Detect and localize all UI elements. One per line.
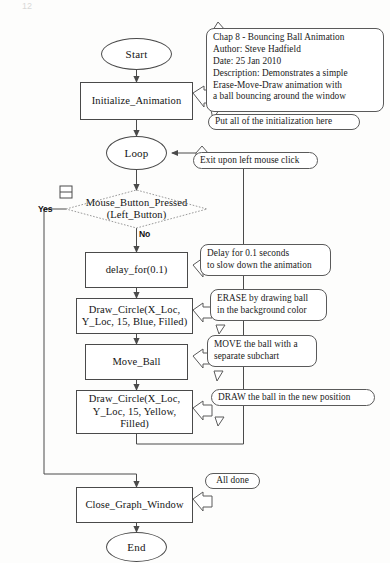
callout-header-line-3: Description: Demonstrates a simple	[213, 68, 377, 80]
decision-no-label: No	[139, 229, 150, 239]
callout-header-line-1: Author: Steve Hadfield	[213, 44, 377, 56]
callout-pointer-draw	[193, 401, 212, 420]
node-decision-line1: Mouse_Button_Pressed	[86, 197, 188, 208]
callout-header-line-5: a ball bouncing around the window	[213, 91, 377, 103]
callout-tail-move	[214, 371, 223, 381]
callout-init-line-0: Put all of the initialization here	[215, 116, 332, 128]
node-erase-text: Draw_Circle(X_Loc, Y_Loc, 15, Blue, Fill…	[82, 304, 188, 329]
node-start-label: Start	[126, 48, 148, 61]
callout-pointer-done	[193, 492, 212, 511]
node-initialize-animation[interactable]: Initialize_Animation	[80, 82, 193, 120]
callout-done-comment[interactable]: All done	[205, 473, 260, 489]
callout-delay-comment[interactable]: Delay for 0.1 seconds to slow down the a…	[200, 244, 331, 276]
node-decision-line2: (Left_Button)	[107, 209, 167, 220]
node-draw-circle-draw[interactable]: Draw_Circle(X_Loc, Y_Loc, 15, Yellow, Fi…	[76, 390, 193, 434]
callout-header-comment[interactable]: Chap 8 - Bouncing Ball Animation Author:…	[206, 28, 384, 112]
node-close-graph-window[interactable]: Close_Graph_Window	[76, 487, 193, 523]
node-move-ball-label: Move_Ball	[112, 356, 160, 368]
node-initialize-label: Initialize_Animation	[92, 95, 181, 107]
node-start[interactable]: Start	[101, 38, 172, 70]
callout-erase-line-1: in the background color	[217, 305, 320, 317]
node-decision-mouse-button-pressed[interactable]: Mouse_Button_Pressed (Left_Button)	[66, 190, 207, 228]
node-loop[interactable]: Loop	[106, 136, 167, 170]
callout-done-line-0: All done	[216, 475, 249, 487]
callout-delay-line-1: to slow down the animation	[207, 260, 324, 272]
callout-erase-comment[interactable]: ERASE by drawing ball in the background …	[210, 289, 327, 321]
node-erase-line2: Y_Loc, 15, Blue, Filled)	[82, 316, 188, 327]
callout-header-line-2: Date: 25 Jan 2010	[213, 56, 377, 68]
node-close-label: Close_Graph_Window	[85, 499, 183, 511]
node-draw-circle-erase[interactable]: Draw_Circle(X_Loc, Y_Loc, 15, Blue, Fill…	[76, 298, 193, 334]
flowchart-canvas: 12	[0, 0, 390, 563]
callout-tail-erase	[216, 325, 225, 334]
callout-exit-line-0: Exit upon left mouse click	[200, 155, 299, 167]
callout-move-line-1: separate subchart	[214, 351, 310, 363]
callout-header-line-0: Chap 8 - Bouncing Ball Animation	[213, 32, 377, 44]
node-erase-line1: Draw_Circle(X_Loc,	[89, 304, 180, 315]
callout-draw-comment[interactable]: DRAW the ball in the new position	[211, 389, 375, 406]
callout-move-line-0: MOVE the ball with a	[214, 339, 310, 351]
node-delay-for[interactable]: delay_for(0.1)	[85, 252, 188, 288]
callout-exit-comment[interactable]: Exit upon left mouse click	[193, 152, 318, 169]
node-end-label: End	[127, 541, 145, 554]
callout-move-comment[interactable]: MOVE the ball with a separate subchart	[207, 335, 317, 367]
node-delay-label: delay_for(0.1)	[106, 264, 168, 276]
callout-erase-line-0: ERASE by drawing ball	[217, 293, 320, 305]
decision-yes-label: Yes	[38, 204, 52, 214]
node-draw-line1: Draw_Circle(X_Loc,	[89, 393, 180, 404]
callout-draw-line-0: DRAW the ball in the new position	[218, 392, 350, 404]
callout-delay-line-0: Delay for 0.1 seconds	[207, 248, 324, 260]
node-decision-text: Mouse_Button_Pressed (Left_Button)	[86, 197, 188, 222]
callout-tail-draw	[215, 417, 224, 426]
node-end[interactable]: End	[106, 532, 167, 562]
node-loop-label: Loop	[124, 147, 148, 160]
node-draw-line3: Filled)	[120, 418, 149, 429]
node-draw-text: Draw_Circle(X_Loc, Y_Loc, 15, Yellow, Fi…	[89, 393, 180, 430]
callout-initialization-comment[interactable]: Put all of the initialization here	[208, 114, 360, 130]
node-move-ball[interactable]: Move_Ball	[85, 344, 188, 380]
callout-header-line-4: Erase-Move-Draw animation with	[213, 80, 377, 92]
node-draw-line2: Y_Loc, 15, Yellow,	[93, 406, 176, 417]
